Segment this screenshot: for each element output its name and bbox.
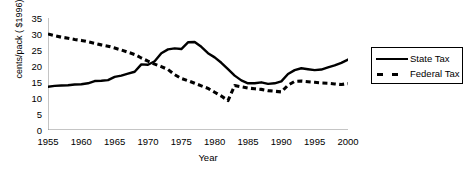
legend-swatch-solid-icon — [376, 54, 408, 64]
y-axis-tick-label: 5 — [24, 109, 42, 120]
legend-label-federal-tax: Federal Tax — [408, 68, 459, 79]
legend-swatch-dashed-icon — [376, 69, 408, 79]
y-axis-tick-label: 30 — [24, 29, 42, 40]
x-axis-tick-label: 2000 — [337, 136, 358, 147]
x-axis-tick-label: 1960 — [71, 136, 92, 147]
legend-item-state-tax: State Tax — [372, 51, 462, 66]
chart-figure: cents/pack ( $1996) 05101520253035 19551… — [0, 0, 469, 184]
x-axis-tick-label: 1985 — [237, 136, 258, 147]
legend-item-federal-tax: Federal Tax — [372, 66, 462, 81]
x-axis-tick-label: 1970 — [137, 136, 158, 147]
y-axis-tick-labels: 05101520253035 — [22, 0, 42, 184]
y-axis-tick-label: 20 — [24, 61, 42, 72]
legend-label-state-tax: State Tax — [408, 53, 449, 64]
x-axis-tick-label: 1955 — [37, 136, 58, 147]
x-axis-tick-label: 1980 — [204, 136, 225, 147]
x-axis-tick-label: 1990 — [271, 136, 292, 147]
y-axis-tick-label: 25 — [24, 45, 42, 56]
y-axis-tick-label: 35 — [24, 13, 42, 24]
x-axis-tick-label: 1965 — [104, 136, 125, 147]
y-axis-tick-label: 15 — [24, 77, 42, 88]
x-axis-tick-label: 1975 — [171, 136, 192, 147]
x-axis-tick-label: 1995 — [304, 136, 325, 147]
y-axis-tick-label: 0 — [24, 125, 42, 136]
x-axis-title: Year — [168, 152, 248, 163]
y-axis-tick-label: 10 — [24, 93, 42, 104]
legend: State Tax Federal Tax — [371, 47, 463, 84]
